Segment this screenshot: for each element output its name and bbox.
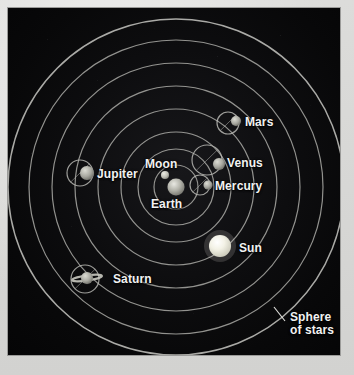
orbit-svg [8, 8, 340, 355]
body-mercury [204, 181, 213, 190]
sky-panel: EarthMoonMercuryVenusSunMarsJupiterSatur… [8, 8, 340, 355]
body-jupiter [80, 166, 94, 180]
body-sun [209, 235, 231, 257]
diagram-page: EarthMoonMercuryVenusSunMarsJupiterSatur… [0, 0, 354, 375]
body-saturn [81, 272, 93, 284]
body-earth [168, 179, 185, 196]
body-mars [231, 116, 241, 126]
diagram-stage: EarthMoonMercuryVenusSunMarsJupiterSatur… [8, 8, 340, 355]
celestial-bodies [72, 116, 241, 284]
body-moon [161, 171, 169, 179]
body-venus [213, 158, 225, 170]
epicycles [67, 112, 239, 293]
